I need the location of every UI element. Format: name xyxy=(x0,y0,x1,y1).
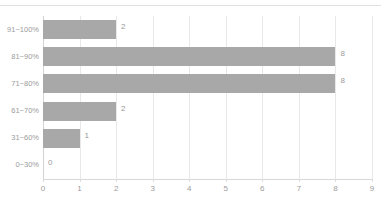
x-axis-tick-labels: 0123456789 xyxy=(43,183,372,197)
x-axis-label-3: 3 xyxy=(143,183,163,194)
x-tick-1 xyxy=(80,179,81,182)
x-axis-label-5: 5 xyxy=(216,183,236,194)
y-axis-label-7180: 71~80% xyxy=(0,79,39,89)
bar-chart: 0~30%31~60%61~70%71~80%81~90%91~100% 012… xyxy=(0,0,381,200)
bar-value-label: 8 xyxy=(340,76,344,86)
y-axis-label-8190: 81~90% xyxy=(0,52,39,62)
bar-value-label: 2 xyxy=(121,104,125,114)
bar-row: 2 xyxy=(43,98,372,125)
bar-row: 0 xyxy=(43,152,372,179)
x-tick-6 xyxy=(262,179,263,182)
bar-row: 8 xyxy=(43,70,372,97)
bar-row: 2 xyxy=(43,16,372,43)
y-axis-label-6170: 61~70% xyxy=(0,106,39,116)
bar[interactable] xyxy=(43,102,116,121)
bar[interactable] xyxy=(43,129,80,148)
plot-area: 012882 xyxy=(43,16,372,179)
x-axis-label-4: 4 xyxy=(179,183,199,194)
x-tick-8 xyxy=(335,179,336,182)
bar-value-label: 0 xyxy=(48,158,52,168)
bar[interactable] xyxy=(43,74,335,93)
x-tick-9 xyxy=(372,179,373,182)
x-axis-line xyxy=(43,179,372,180)
x-axis-label-6: 6 xyxy=(252,183,272,194)
x-tick-5 xyxy=(226,179,227,182)
x-tick-3 xyxy=(153,179,154,182)
bar[interactable] xyxy=(43,47,335,66)
gridline-9 xyxy=(372,16,373,179)
bar-row: 8 xyxy=(43,43,372,70)
bar-value-label: 1 xyxy=(85,131,89,141)
bar[interactable] xyxy=(43,20,116,39)
x-axis-label-8: 8 xyxy=(325,183,345,194)
x-axis-label-7: 7 xyxy=(289,183,309,194)
y-axis-label-91100: 91~100% xyxy=(0,25,39,35)
top-divider xyxy=(0,5,381,6)
y-axis-category-labels: 0~30%31~60%61~70%71~80%81~90%91~100% xyxy=(0,16,39,179)
y-axis-label-030: 0~30% xyxy=(0,160,39,170)
y-axis-label-3160: 31~60% xyxy=(0,133,39,143)
bar-value-label: 8 xyxy=(340,49,344,59)
x-axis-label-2: 2 xyxy=(106,183,126,194)
x-tick-4 xyxy=(189,179,190,182)
x-tick-2 xyxy=(116,179,117,182)
x-axis-label-9: 9 xyxy=(362,183,381,194)
bar-value-label: 2 xyxy=(121,22,125,32)
x-tick-7 xyxy=(299,179,300,182)
x-tick-0 xyxy=(43,179,44,182)
x-axis-label-0: 0 xyxy=(33,183,53,194)
bar-row: 1 xyxy=(43,125,372,152)
x-axis-label-1: 1 xyxy=(70,183,90,194)
